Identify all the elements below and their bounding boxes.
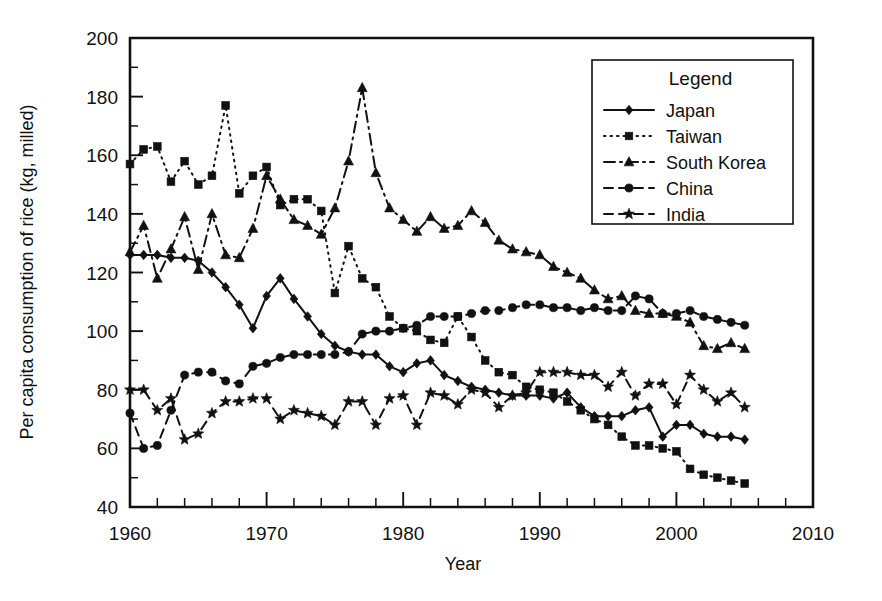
data-point-marker bbox=[140, 444, 148, 452]
data-point-marker bbox=[345, 242, 353, 250]
data-point-marker bbox=[331, 289, 339, 297]
data-point-marker bbox=[481, 307, 489, 315]
data-point-marker bbox=[508, 244, 518, 253]
data-point-marker bbox=[357, 82, 367, 91]
data-point-marker bbox=[263, 359, 271, 367]
data-point-marker bbox=[222, 102, 230, 110]
data-point-marker bbox=[618, 433, 626, 441]
data-point-marker bbox=[181, 253, 189, 263]
data-point-marker bbox=[604, 421, 612, 429]
data-point-marker bbox=[302, 407, 313, 418]
data-point-marker bbox=[454, 376, 462, 386]
y-tick-label: 180 bbox=[86, 87, 118, 108]
data-point-marker bbox=[425, 387, 436, 398]
data-point-marker bbox=[247, 393, 258, 404]
data-point-marker bbox=[139, 220, 149, 229]
data-point-marker bbox=[535, 250, 545, 259]
data-point-marker bbox=[495, 388, 503, 398]
data-point-marker bbox=[371, 167, 381, 176]
data-point-marker bbox=[384, 393, 395, 404]
data-point-marker bbox=[399, 367, 407, 377]
data-point-marker bbox=[398, 214, 408, 223]
data-point-marker bbox=[468, 333, 476, 341]
data-point-marker bbox=[181, 157, 189, 165]
data-point-marker bbox=[138, 384, 149, 395]
series-line bbox=[130, 255, 745, 440]
x-tick-label: 1980 bbox=[382, 523, 424, 544]
data-point-marker bbox=[330, 203, 340, 212]
data-point-marker bbox=[357, 396, 368, 407]
data-point-marker bbox=[727, 318, 735, 326]
data-point-marker bbox=[206, 407, 217, 418]
data-point-marker bbox=[276, 353, 284, 361]
data-point-marker bbox=[713, 432, 721, 442]
y-tick-label: 80 bbox=[97, 380, 118, 401]
data-point-marker bbox=[181, 371, 189, 379]
data-point-marker bbox=[194, 368, 202, 376]
data-point-marker bbox=[672, 309, 680, 317]
data-point-marker bbox=[536, 386, 544, 394]
data-point-marker bbox=[617, 291, 627, 300]
data-point-marker bbox=[480, 217, 490, 226]
data-point-marker bbox=[208, 172, 216, 180]
data-point-marker bbox=[193, 264, 203, 273]
data-point-marker bbox=[426, 211, 436, 220]
data-point-marker bbox=[344, 156, 354, 165]
data-point-marker bbox=[261, 393, 272, 404]
data-point-marker bbox=[467, 206, 477, 215]
series-line bbox=[130, 296, 745, 448]
data-point-marker bbox=[140, 146, 148, 154]
series-india bbox=[124, 366, 750, 444]
data-point-marker bbox=[645, 295, 653, 303]
x-tick-label: 1990 bbox=[519, 523, 561, 544]
data-point-marker bbox=[331, 350, 339, 358]
x-tick-label: 1960 bbox=[109, 523, 151, 544]
x-tick-label: 1970 bbox=[245, 523, 287, 544]
data-point-marker bbox=[248, 223, 258, 232]
data-point-marker bbox=[303, 350, 311, 358]
data-point-marker bbox=[713, 315, 721, 323]
legend[interactable]: LegendJapanTaiwanSouth KoreaChinaIndia bbox=[592, 60, 793, 225]
data-point-marker bbox=[304, 195, 312, 203]
data-point-marker bbox=[413, 359, 421, 369]
data-point-marker bbox=[426, 312, 434, 320]
data-point-marker bbox=[385, 327, 393, 335]
legend-label: South Korea bbox=[666, 153, 767, 173]
series-japan bbox=[126, 250, 749, 444]
data-point-marker bbox=[686, 420, 694, 430]
data-point-marker bbox=[221, 250, 231, 259]
data-point-marker bbox=[632, 442, 640, 450]
data-point-marker bbox=[481, 357, 489, 365]
data-point-marker bbox=[413, 321, 421, 329]
data-point-marker bbox=[604, 411, 612, 421]
data-point-marker bbox=[576, 273, 586, 282]
data-point-marker bbox=[741, 480, 749, 488]
data-point-marker bbox=[454, 312, 462, 320]
data-point-marker bbox=[358, 274, 366, 282]
y-tick-label: 100 bbox=[86, 321, 118, 342]
data-point-marker bbox=[126, 409, 134, 417]
data-point-marker bbox=[495, 307, 503, 315]
data-point-marker bbox=[290, 195, 298, 203]
data-point-marker bbox=[263, 163, 271, 171]
data-point-marker bbox=[509, 371, 517, 379]
data-point-marker bbox=[631, 292, 639, 300]
data-point-marker bbox=[179, 434, 190, 445]
data-point-marker bbox=[153, 250, 161, 260]
data-point-marker bbox=[686, 465, 694, 473]
data-point-marker bbox=[563, 304, 571, 312]
data-point-marker bbox=[386, 313, 394, 321]
data-point-marker bbox=[534, 366, 545, 377]
data-point-marker bbox=[590, 304, 598, 312]
data-point-marker bbox=[344, 348, 352, 356]
data-point-marker bbox=[700, 312, 708, 320]
y-tick-label: 60 bbox=[97, 438, 118, 459]
data-point-marker bbox=[440, 312, 448, 320]
data-point-marker bbox=[317, 350, 325, 358]
data-point-marker bbox=[167, 178, 175, 186]
data-point-marker bbox=[153, 143, 161, 151]
legend-label: Taiwan bbox=[666, 127, 722, 147]
data-point-marker bbox=[329, 419, 340, 430]
data-point-marker bbox=[249, 362, 257, 370]
data-point-marker bbox=[741, 321, 749, 329]
